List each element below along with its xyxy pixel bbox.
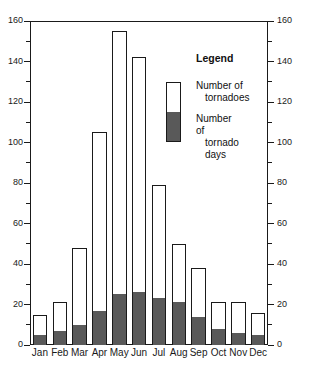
y-tick-right-90	[268, 162, 272, 163]
bar-dark-segment-mar	[73, 325, 86, 345]
x-axis-label-jan: Jan	[30, 347, 50, 359]
bar-dark-segment-oct	[212, 329, 225, 345]
legend-entry-tornadoes: Number of tornadoes	[196, 80, 249, 104]
x-axis-label-sep: Sep	[189, 347, 209, 359]
legend-entry-line2: tornadoes	[196, 92, 249, 104]
y-tick-right-0	[268, 345, 274, 346]
x-axis-label-oct: Oct	[209, 347, 229, 359]
bar-dark-segment-feb	[54, 331, 67, 345]
y-tick-label-left-160: 160	[8, 16, 23, 25]
legend-entry-line1: Number of	[196, 113, 232, 136]
legend-title: Legend	[196, 52, 233, 64]
bar-apr	[92, 132, 107, 345]
bar-feb	[53, 302, 68, 345]
legend-swatch-dark-segment	[167, 112, 180, 141]
bar-dark-segment-jun	[133, 292, 146, 345]
y-tick-label-right-0: 0	[277, 340, 282, 349]
y-tick-label-right-80: 80	[277, 178, 287, 187]
bar-dark-segment-nov	[232, 333, 245, 345]
y-tick-right-120	[268, 102, 274, 103]
x-axis-label-jul: Jul	[149, 347, 169, 359]
y-tick-label-left-60: 60	[13, 219, 23, 228]
bar-aug	[172, 244, 187, 345]
bar-dark-segment-jan	[34, 335, 47, 345]
bar-jan	[33, 315, 48, 345]
bar-may	[112, 31, 127, 345]
y-tick-label-right-60: 60	[277, 219, 287, 228]
y-tick-right-160	[268, 21, 274, 22]
y-tick-right-70	[268, 203, 272, 204]
legend-entry-line2: tornado days	[196, 137, 239, 161]
y-tick-label-right-40: 40	[277, 259, 287, 268]
y-tick-right-10	[268, 324, 272, 325]
x-axis-label-mar: Mar	[70, 347, 90, 359]
y-tick-right-100	[268, 142, 274, 143]
y-tick-label-left-20: 20	[13, 300, 23, 309]
y-tick-right-140	[268, 61, 274, 62]
bar-sep	[191, 268, 206, 345]
bar-dark-segment-aug	[173, 302, 186, 345]
y-tick-right-40	[268, 264, 274, 265]
bar-dark-segment-jul	[153, 298, 166, 345]
legend-swatch	[166, 82, 181, 142]
y-tick-label-left-40: 40	[13, 259, 23, 268]
bar-jul	[152, 185, 167, 345]
y-tick-label-right-140: 140	[277, 57, 292, 66]
y-tick-label-right-20: 20	[277, 300, 287, 309]
x-axis-label-feb: Feb	[50, 347, 70, 359]
y-tick-right-80	[268, 183, 274, 184]
bar-nov	[231, 302, 246, 345]
y-tick-right-110	[268, 122, 272, 123]
y-tick-label-left-140: 140	[8, 57, 23, 66]
bars-layer	[30, 21, 268, 345]
tornado-bar-chart: 0020204040606080801001001201201401401601…	[0, 0, 316, 377]
bar-dark-segment-apr	[93, 311, 106, 345]
y-tick-right-20	[268, 304, 274, 305]
y-tick-label-left-100: 100	[8, 138, 23, 147]
y-tick-right-30	[268, 284, 272, 285]
y-tick-label-right-120: 120	[277, 97, 292, 106]
x-axis-label-may: May	[109, 347, 129, 359]
y-tick-label-left-120: 120	[8, 97, 23, 106]
bar-jun	[132, 57, 147, 345]
y-tick-label-left-0: 0	[18, 340, 23, 349]
x-axis-label-nov: Nov	[228, 347, 248, 359]
bar-dark-segment-may	[113, 294, 126, 345]
x-axis-label-apr: Apr	[90, 347, 110, 359]
legend-entry-line1: Number of	[196, 80, 243, 91]
y-tick-label-right-160: 160	[277, 16, 292, 25]
y-tick-right-130	[268, 81, 272, 82]
bar-oct	[211, 302, 226, 345]
y-tick-right-50	[268, 243, 272, 244]
bar-dark-segment-sep	[192, 317, 205, 345]
bar-mar	[72, 248, 87, 345]
x-axis-label-aug: Aug	[169, 347, 189, 359]
bar-dec	[251, 313, 266, 345]
x-axis-label-jun: Jun	[129, 347, 149, 359]
y-tick-label-left-80: 80	[13, 178, 23, 187]
bar-dark-segment-dec	[252, 335, 265, 345]
y-tick-right-60	[268, 223, 274, 224]
x-axis-label-dec: Dec	[248, 347, 268, 359]
legend-entry-tornado-days: Number of tornado days	[196, 113, 239, 161]
y-tick-label-right-100: 100	[277, 138, 292, 147]
y-tick-right-150	[268, 41, 272, 42]
